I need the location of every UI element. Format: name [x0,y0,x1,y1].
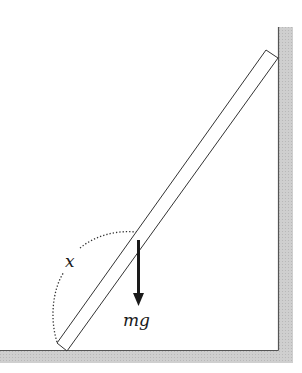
angle-label: x [65,251,75,271]
ladder [57,50,278,351]
wall [279,27,294,363]
weight-label: mg [123,310,150,330]
floor [0,351,293,364]
ladder-diagram: x mg [0,0,302,373]
